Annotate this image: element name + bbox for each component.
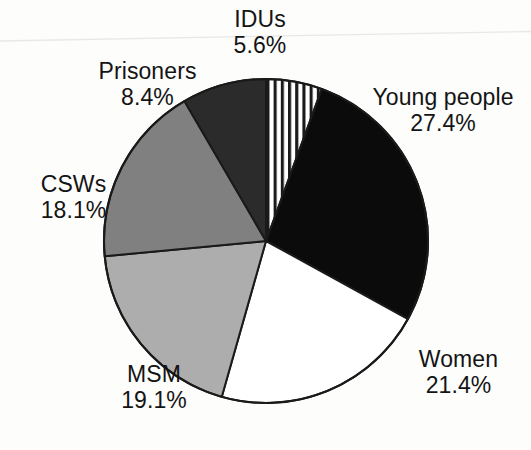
pie-label-prisoners-value: 8.4%	[60, 84, 235, 110]
pie-label-idus: IDUs 5.6%	[180, 6, 340, 58]
pie-label-young-people-value: 27.4%	[355, 110, 531, 136]
pie-label-women: Women 21.4%	[386, 346, 531, 398]
pie-label-csws: CSWs 18.1%	[6, 171, 141, 223]
pie-label-young-people: Young people 27.4%	[355, 84, 531, 136]
pie-label-prisoners-name: Prisoners	[60, 58, 235, 84]
pie-label-msm-value: 19.1%	[84, 387, 224, 413]
pie-label-csws-value: 18.1%	[6, 197, 141, 223]
pie-label-women-name: Women	[386, 346, 531, 372]
pie-label-idus-value: 5.6%	[180, 32, 340, 58]
pie-chart-figure: IDUs 5.6% Prisoners 8.4% CSWs 18.1% MSM …	[0, 0, 531, 450]
pie-label-young-people-name: Young people	[355, 84, 531, 110]
pie-label-csws-name: CSWs	[6, 171, 141, 197]
pie-label-women-value: 21.4%	[386, 372, 531, 398]
pie-label-prisoners: Prisoners 8.4%	[60, 58, 235, 110]
pie-label-idus-name: IDUs	[180, 6, 340, 32]
pie-label-msm-name: MSM	[84, 361, 224, 387]
pie-label-msm: MSM 19.1%	[84, 361, 224, 413]
